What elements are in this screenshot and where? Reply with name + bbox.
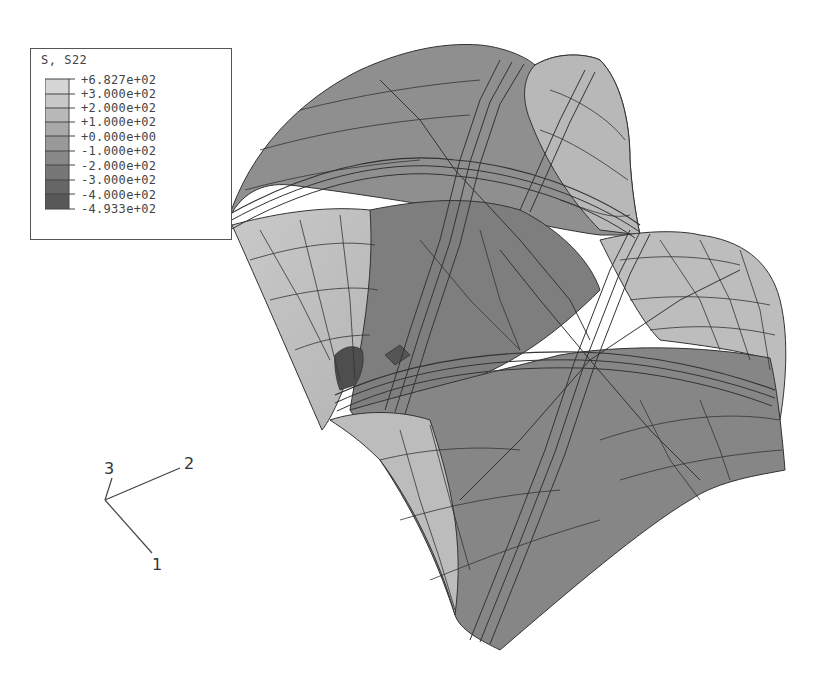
legend-tick-label: +0.000e+00: [81, 131, 156, 143]
legend-tick-label: -1.000e+02: [81, 145, 156, 157]
legend-tick-label: -2.000e+02: [81, 160, 156, 172]
legend-tick-label: +3.000e+02: [81, 88, 156, 100]
legend-tick-label: +2.000e+02: [81, 102, 156, 114]
legend-tick-label: -4.933e+02: [81, 203, 156, 215]
legend-tick-label: +6.827e+02: [81, 74, 156, 86]
legend-tick-label: -3.000e+02: [81, 174, 156, 186]
contour-legend: S, S22 +6.827e+02 +3.000e+02 +2.000e+02 …: [30, 48, 232, 240]
legend-tick-label: +1.000e+02: [81, 116, 156, 128]
legend-colorbar: [45, 59, 85, 239]
legend-tick-label: -4.000e+02: [81, 189, 156, 201]
